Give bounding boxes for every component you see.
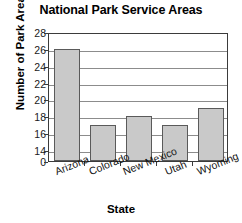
chart-title: National Park Service Areas (0, 3, 242, 17)
y-axis-tick-labels: 01416182022242628 (0, 33, 46, 162)
plot-area (48, 33, 228, 162)
bar (198, 108, 225, 161)
bar-chart: National Park Service Areas Number of Pa… (0, 0, 242, 223)
x-axis-tick-labels: ArizonaColoradoNew MexicoUtahWyoming (0, 162, 242, 204)
y-axis-tick-label: 26 (2, 44, 46, 56)
x-axis-title: State (0, 203, 242, 215)
y-axis-tick-label: 22 (2, 78, 46, 90)
y-axis-tick-label: 28 (2, 27, 46, 39)
y-axis-tick-label: 24 (2, 61, 46, 73)
y-axis-tick-label: 16 (2, 128, 46, 140)
y-axis-tick-label: 14 (2, 145, 46, 157)
y-axis-tick-label: 18 (2, 111, 46, 123)
bar (54, 49, 81, 161)
y-axis-tick-label: 20 (2, 94, 46, 106)
